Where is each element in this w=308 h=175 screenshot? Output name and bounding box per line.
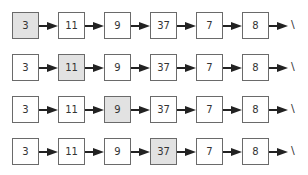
- arrow-right-icon: [85, 151, 104, 153]
- list-node: 37: [150, 96, 177, 123]
- list-node-current: 9: [104, 96, 131, 123]
- list-node: 3: [12, 54, 39, 81]
- list-node: 3: [12, 96, 39, 123]
- list-node: 37: [150, 54, 177, 81]
- arrow-right-icon: [177, 25, 196, 27]
- list-node: 8: [242, 138, 269, 165]
- null-terminator: \: [291, 102, 295, 115]
- list-node-current: 3: [12, 12, 39, 39]
- list-row: 31193778\: [0, 12, 308, 39]
- arrow-right-icon: [131, 109, 150, 111]
- list-node: 9: [104, 12, 131, 39]
- list-node: 7: [196, 54, 223, 81]
- arrow-right-icon: [177, 151, 196, 153]
- arrow-right-icon: [223, 151, 242, 153]
- list-node: 8: [242, 96, 269, 123]
- null-terminator: \: [291, 144, 295, 157]
- list-row: 31193778\: [0, 138, 308, 165]
- arrow-right-icon: [223, 109, 242, 111]
- list-row: 31193778\: [0, 96, 308, 123]
- null-terminator: \: [291, 18, 295, 31]
- list-node-current: 11: [58, 54, 85, 81]
- list-node: 11: [58, 138, 85, 165]
- list-node: 8: [242, 54, 269, 81]
- arrow-right-icon: [177, 109, 196, 111]
- arrow-right-icon: [39, 109, 58, 111]
- arrow-right-icon: [131, 151, 150, 153]
- arrow-right-icon: [131, 25, 150, 27]
- arrow-right-icon: [85, 67, 104, 69]
- list-node: 9: [104, 54, 131, 81]
- arrow-right-icon: [269, 25, 288, 27]
- null-terminator: \: [291, 60, 295, 73]
- arrow-right-icon: [177, 67, 196, 69]
- list-row: 31193778\: [0, 54, 308, 81]
- list-node: 7: [196, 138, 223, 165]
- arrow-right-icon: [269, 67, 288, 69]
- arrow-right-icon: [39, 25, 58, 27]
- list-node: 11: [58, 96, 85, 123]
- arrow-right-icon: [39, 151, 58, 153]
- arrow-right-icon: [85, 109, 104, 111]
- arrow-right-icon: [269, 109, 288, 111]
- arrow-right-icon: [223, 67, 242, 69]
- list-node: 9: [104, 138, 131, 165]
- list-node: 8: [242, 12, 269, 39]
- arrow-right-icon: [131, 67, 150, 69]
- list-node: 7: [196, 12, 223, 39]
- arrow-right-icon: [223, 25, 242, 27]
- list-node: 37: [150, 12, 177, 39]
- list-node: 11: [58, 12, 85, 39]
- arrow-right-icon: [39, 67, 58, 69]
- list-node: 7: [196, 96, 223, 123]
- arrow-right-icon: [85, 25, 104, 27]
- list-node-current: 37: [150, 138, 177, 165]
- arrow-right-icon: [269, 151, 288, 153]
- list-node: 3: [12, 138, 39, 165]
